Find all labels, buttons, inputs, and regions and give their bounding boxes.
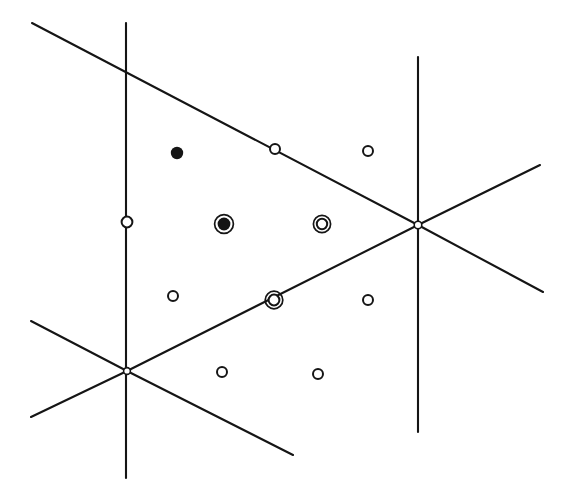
point-double-ring-on-ascending-diagonal-inner-ring bbox=[269, 295, 280, 306]
node-right bbox=[414, 221, 422, 229]
diagonal-descending-lower-right bbox=[418, 225, 543, 292]
point-open-mid-right-ring bbox=[363, 295, 373, 305]
point-double-ring-center-right-inner-ring bbox=[317, 219, 327, 229]
diagonal-descending-upper bbox=[32, 23, 418, 225]
point-open-mid-right bbox=[363, 295, 373, 305]
point-double-ring-on-ascending-diagonal bbox=[265, 291, 283, 309]
point-open-mid-left-ring bbox=[168, 291, 178, 301]
point-open-upper-right bbox=[363, 146, 373, 156]
lattice-points-group bbox=[122, 144, 373, 379]
diagonal-descending-into-node-a bbox=[31, 321, 127, 371]
figure-canvas bbox=[0, 0, 569, 490]
diagonal-ascending-right-tail bbox=[418, 165, 540, 225]
point-open-on-upper-diagonal bbox=[270, 144, 280, 154]
point-open-on-upper-diagonal-ring bbox=[270, 144, 280, 154]
point-open-lower-right bbox=[313, 369, 323, 379]
diagram-svg bbox=[0, 0, 569, 490]
point-filled-upper-left-dot bbox=[171, 147, 183, 159]
point-open-lower-left bbox=[217, 367, 227, 377]
hyperplane-lines-group bbox=[31, 23, 543, 478]
point-open-on-left-vertical-ring bbox=[122, 217, 133, 228]
point-filled-upper-left bbox=[171, 147, 183, 159]
diagonal-ascending-into-node-a bbox=[31, 371, 127, 417]
diagonal-descending-out-of-node-a bbox=[127, 371, 293, 455]
node-left bbox=[124, 368, 131, 375]
point-filled-ringed-center-dot bbox=[218, 218, 231, 231]
point-open-upper-right-ring bbox=[363, 146, 373, 156]
point-open-lower-left-ring bbox=[217, 367, 227, 377]
point-open-mid-left bbox=[168, 291, 178, 301]
point-open-on-left-vertical bbox=[122, 217, 133, 228]
point-double-ring-center-right bbox=[313, 215, 330, 232]
point-filled-ringed-center bbox=[215, 215, 234, 234]
point-open-lower-right-ring bbox=[313, 369, 323, 379]
